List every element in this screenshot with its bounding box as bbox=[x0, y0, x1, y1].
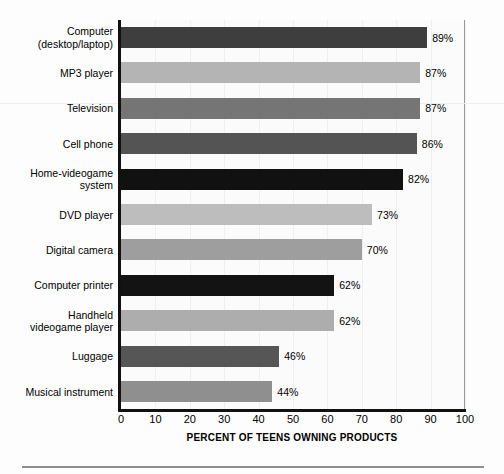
bar-row: Luggage46% bbox=[0, 339, 504, 374]
category-label: Computer(desktop/laptop) bbox=[0, 20, 113, 55]
bar bbox=[121, 169, 403, 190]
bar bbox=[121, 27, 427, 48]
bar-row: Musical instrument44% bbox=[0, 374, 504, 409]
x-tick-label: 100 bbox=[445, 413, 485, 425]
bar-row: DVD player73% bbox=[0, 197, 504, 232]
bar bbox=[121, 204, 372, 225]
bar bbox=[121, 98, 420, 119]
category-label: Television bbox=[0, 91, 113, 126]
bar-row: Computer printer62% bbox=[0, 268, 504, 303]
bar-value-label: 44% bbox=[277, 374, 298, 409]
bar-row: Home-videogamesystem82% bbox=[0, 162, 504, 197]
bar bbox=[121, 133, 417, 154]
x-axis-title: PERCENT OF TEENS OWNING PRODUCTS bbox=[118, 432, 466, 443]
bar-row: Computer(desktop/laptop)89% bbox=[0, 20, 504, 55]
chart-figure: Computer(desktop/laptop)89%MP3 player87%… bbox=[0, 0, 504, 474]
bar-rows: Computer(desktop/laptop)89%MP3 player87%… bbox=[0, 20, 504, 410]
bar-value-label: 70% bbox=[367, 232, 388, 267]
bar-value-label: 86% bbox=[422, 126, 443, 161]
bar-value-label: 62% bbox=[339, 303, 360, 338]
bar-value-label: 87% bbox=[425, 91, 446, 126]
bar-row: Digital camera70% bbox=[0, 232, 504, 267]
category-label: Handheldvideogame player bbox=[0, 303, 113, 338]
category-label: Digital camera bbox=[0, 232, 113, 267]
bar-value-label: 73% bbox=[377, 197, 398, 232]
bar-row: Handheldvideogame player62% bbox=[0, 303, 504, 338]
bar bbox=[121, 275, 334, 296]
category-label: Home-videogamesystem bbox=[0, 162, 113, 197]
bar-value-label: 87% bbox=[425, 55, 446, 90]
bar-value-label: 82% bbox=[408, 162, 429, 197]
bar bbox=[121, 346, 279, 367]
category-label: Cell phone bbox=[0, 126, 113, 161]
bar bbox=[121, 381, 272, 402]
category-label: Musical instrument bbox=[0, 374, 113, 409]
bottom-rule bbox=[22, 466, 484, 468]
category-label: Luggage bbox=[0, 339, 113, 374]
bar bbox=[121, 310, 334, 331]
bar-value-label: 46% bbox=[284, 339, 305, 374]
bar bbox=[121, 62, 420, 83]
bar bbox=[121, 239, 362, 260]
bar-row: Television87% bbox=[0, 91, 504, 126]
bar-value-label: 89% bbox=[432, 20, 453, 55]
bar-row: MP3 player87% bbox=[0, 55, 504, 90]
category-label: MP3 player bbox=[0, 55, 113, 90]
x-axis-tick-labels: 0102030405060708090100 bbox=[0, 413, 504, 431]
category-label: DVD player bbox=[0, 197, 113, 232]
bar-row: Cell phone86% bbox=[0, 126, 504, 161]
bar-value-label: 62% bbox=[339, 268, 360, 303]
category-label: Computer printer bbox=[0, 268, 113, 303]
